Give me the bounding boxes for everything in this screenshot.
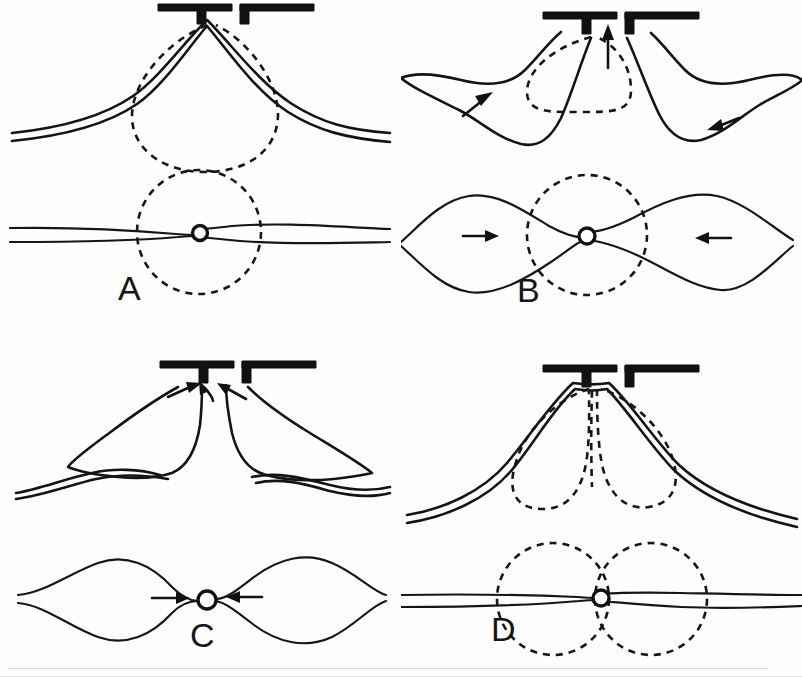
- constriction-ring: [579, 228, 595, 244]
- plan-membrane-lower-line-right: [587, 240, 793, 290]
- plan-membrane-upper-line-right: [600, 593, 802, 595]
- membrane-right-lobe-outline: [226, 385, 372, 480]
- panel-label-A: A: [118, 269, 141, 307]
- plan-membrane-upper-line: [10, 228, 199, 235]
- panel-A: A: [0, 0, 401, 338]
- arrow-left-lobe: [463, 92, 493, 116]
- plan-membrane-lower-line: [10, 236, 199, 242]
- plan-membrane-lower-line-right: [199, 237, 390, 243]
- panel-C: C: [0, 339, 401, 677]
- arrow-plan-left: [463, 230, 499, 242]
- arrow-apex-right: [217, 383, 246, 399]
- panel-B: B: [401, 0, 802, 338]
- figure-root: A: [0, 0, 802, 677]
- plan-lens-right-upper: [216, 557, 386, 599]
- membrane-left-lobe-outline: [68, 385, 202, 478]
- plan-lens-right-lower: [216, 601, 386, 643]
- panel-label-D: D: [491, 610, 516, 648]
- membrane-outer-line: [407, 383, 797, 519]
- slit-aperture-bracket-icon: [160, 361, 316, 383]
- plan-membrane-upper-line-right: [199, 224, 390, 229]
- dashed-vesicle-outline: [527, 37, 631, 112]
- plan-membrane-lower-line: [401, 600, 600, 607]
- dashed-pore-circle-right: [595, 543, 707, 655]
- plan-membrane-upper-line-right: [587, 195, 793, 240]
- scan-edge-artifact: [8, 668, 768, 669]
- slit-aperture-bracket-icon: [158, 4, 314, 24]
- membrane-outer-line: [12, 20, 390, 133]
- panel-D: D: [401, 339, 802, 677]
- constriction-ring: [193, 226, 208, 241]
- slit-aperture-bracket-icon: [543, 12, 699, 34]
- arrow-plan-left: [152, 592, 190, 604]
- panel-label-C: C: [190, 616, 215, 654]
- plan-membrane-lower-line: [401, 240, 587, 293]
- slit-aperture-bracket-icon: [543, 365, 699, 387]
- constriction-ring: [198, 591, 216, 609]
- plan-membrane-lower-line-right: [600, 601, 802, 608]
- plan-lens-left-lower: [18, 601, 198, 641]
- plan-membrane-upper-line: [401, 595, 600, 598]
- plan-lens-left-upper: [18, 559, 198, 601]
- constriction-ring: [593, 590, 609, 606]
- arrow-right-lobe: [707, 118, 739, 131]
- dashed-median-septum: [591, 391, 592, 487]
- panel-label-B: B: [517, 271, 540, 309]
- arrow-plan-right: [695, 232, 731, 244]
- dashed-vesicle-outline: [132, 25, 278, 172]
